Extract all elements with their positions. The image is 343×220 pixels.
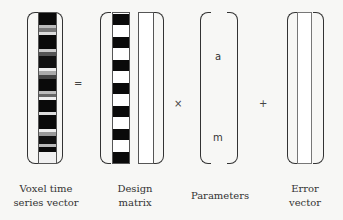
params-label-line1: Parameters (185, 189, 255, 203)
equals-sign: = (74, 78, 82, 89)
error-column (297, 12, 312, 164)
design-right-bracket (153, 12, 164, 164)
params-left-bracket (200, 12, 211, 164)
voxel-label-line1: Voxel time (2, 182, 90, 196)
design-left-bracket (100, 12, 111, 164)
design-column-1 (112, 12, 130, 164)
design-label: Design matrix (100, 182, 170, 210)
param-m: m (213, 132, 223, 143)
error-label-line1: Error (280, 182, 330, 196)
error-right-bracket (313, 12, 324, 164)
error-label: Error vector (280, 182, 330, 210)
voxel-label-line2: series vector (2, 196, 90, 210)
voxel-column (38, 12, 57, 164)
params-right-bracket (227, 12, 238, 164)
times-sign: × (174, 98, 182, 109)
voxel-label: Voxel time series vector (2, 182, 90, 210)
params-label: Parameters (185, 189, 255, 203)
design-label-line1: Design (100, 182, 170, 196)
voxel-left-bracket (27, 12, 38, 164)
design-label-line2: matrix (100, 196, 170, 210)
param-a: a (215, 51, 221, 62)
design-column-2 (138, 12, 154, 164)
error-label-line2: vector (280, 196, 330, 210)
plus-sign: + (259, 98, 267, 109)
